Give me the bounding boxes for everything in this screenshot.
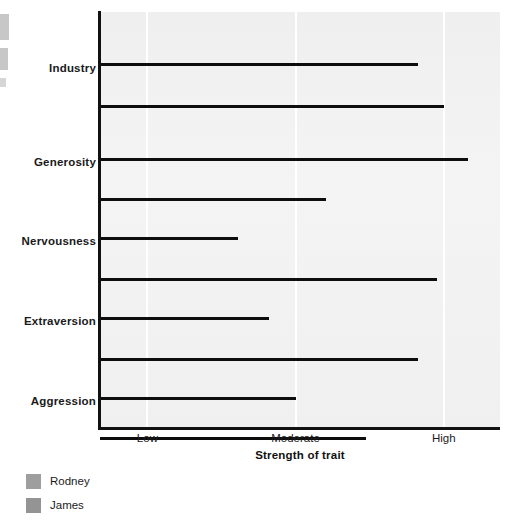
legend-item-rodney: Rodney — [26, 471, 90, 491]
legend-label: James — [50, 499, 84, 511]
bar-generosity-rodney — [100, 129, 466, 158]
bar-baseline — [100, 278, 437, 281]
legend-item-james: James — [26, 495, 90, 515]
gridline-high — [443, 12, 445, 427]
bar-baseline — [100, 198, 326, 201]
x-axis-line — [98, 427, 500, 430]
bar-baseline — [100, 397, 296, 400]
y-axis-line — [98, 11, 101, 430]
bar-generosity-james — [100, 169, 324, 198]
bar-baseline — [100, 317, 269, 320]
legend-swatch-rodney — [26, 474, 41, 489]
chart-legend: RodneyJames — [26, 471, 90, 519]
bar-baseline — [100, 158, 468, 161]
bar-nervousness-james — [100, 249, 435, 278]
legend-label: Rodney — [50, 475, 90, 487]
x-axis-title: Strength of trait — [100, 449, 500, 461]
tick-label-moderate: Moderate — [271, 432, 320, 444]
plot-area — [100, 12, 500, 427]
bar-extraversion-james — [100, 329, 416, 358]
bar-aggression-rodney — [100, 368, 294, 397]
legend-swatch-james — [26, 498, 41, 513]
category-label-industry: Industry — [0, 62, 96, 74]
category-label-aggression: Aggression — [0, 395, 96, 407]
bar-baseline — [100, 63, 418, 66]
bar-extraversion-rodney — [100, 288, 267, 317]
bar-nervousness-rodney — [100, 208, 236, 237]
bar-industry-rodney — [100, 34, 416, 63]
bar-industry-james — [100, 76, 442, 105]
category-label-extraversion: Extraversion — [0, 315, 96, 327]
tick-label-high: High — [432, 432, 456, 444]
bar-baseline — [100, 237, 238, 240]
category-label-generosity: Generosity — [0, 156, 96, 168]
category-label-nervousness: Nervousness — [0, 235, 96, 247]
gridline-moderate — [295, 12, 297, 427]
bar-chart: IndustryGenerosityNervousnessExtraversio… — [0, 0, 510, 524]
tick-label-low: Low — [137, 432, 158, 444]
bar-baseline — [100, 105, 444, 108]
bar-baseline — [100, 358, 418, 361]
